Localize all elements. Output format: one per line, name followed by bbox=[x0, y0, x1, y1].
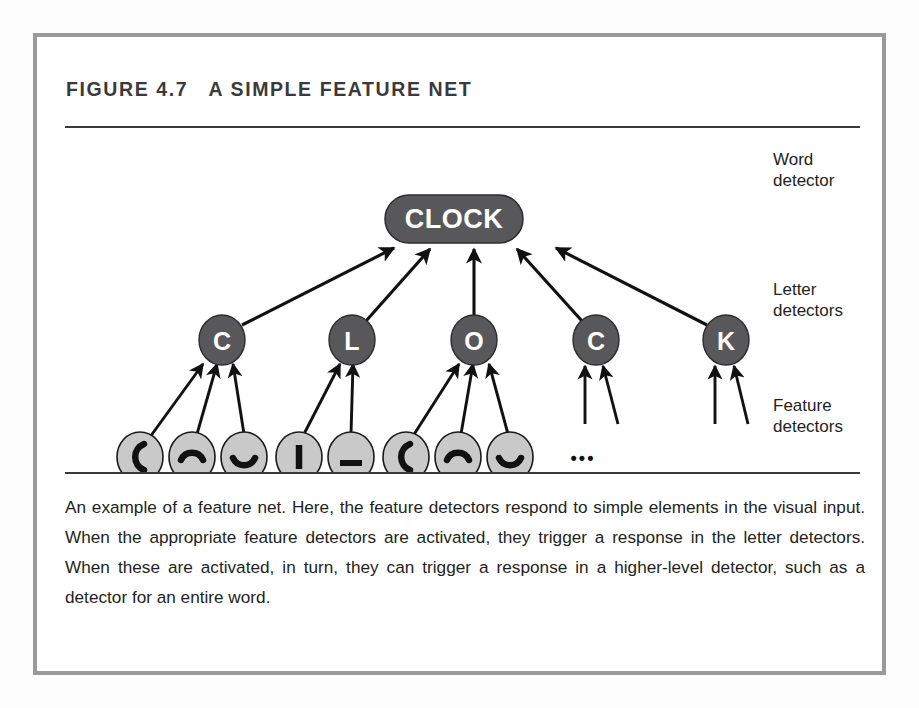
feature-node-6[interactable] bbox=[383, 432, 429, 472]
figure-page: FIGURE 4.7 A SIMPLE FEATURE NET bbox=[0, 0, 919, 708]
feature-node-7[interactable] bbox=[435, 432, 481, 472]
feature-node-8[interactable] bbox=[487, 432, 533, 472]
page-title: FIGURE 4.7 A SIMPLE FEATURE NET bbox=[66, 78, 472, 101]
letter-node-k[interactable]: K bbox=[703, 315, 749, 365]
edge-feature-2-to-letter-c1 bbox=[197, 364, 217, 434]
feature-ellipsis: ••• bbox=[571, 448, 596, 468]
divider-top bbox=[65, 126, 860, 128]
caption-text: An example of a feature net. Here, the f… bbox=[65, 492, 865, 612]
edge-feature-3-to-letter-c1 bbox=[233, 364, 244, 434]
edge-feature-5-to-letter-l bbox=[351, 364, 353, 434]
figure-caption: An example of a feature net. Here, the f… bbox=[65, 492, 865, 612]
letter-node-l[interactable]: L bbox=[329, 315, 375, 365]
letter-node-label: L bbox=[344, 327, 359, 355]
letter-node-label: O bbox=[464, 327, 483, 355]
letter-node-label: C bbox=[587, 327, 605, 355]
edge-feature-4-to-letter-l bbox=[304, 364, 340, 434]
edge-feature-1-to-letter-c1 bbox=[150, 364, 203, 437]
edges-stub bbox=[585, 366, 748, 424]
letter-node-label: K bbox=[717, 327, 735, 355]
feature-node-5[interactable] bbox=[328, 432, 374, 472]
figure-title-text: A SIMPLE FEATURE NET bbox=[209, 78, 473, 100]
edge-letter-l-to-word bbox=[366, 249, 430, 321]
level-label-letter: Letter detectors bbox=[773, 279, 843, 321]
edge-feature-8-to-letter-o bbox=[489, 364, 508, 434]
letter-node-c2[interactable]: C bbox=[573, 315, 619, 365]
edge-stub-letter-c2-b bbox=[603, 366, 618, 424]
feature-node-3[interactable] bbox=[221, 432, 267, 472]
feature-detector-nodes: ••• bbox=[117, 432, 595, 472]
feature-node-2[interactable] bbox=[169, 432, 215, 472]
word-detector-node[interactable]: CLOCK bbox=[385, 195, 523, 243]
edge-letter-k-to-word bbox=[556, 248, 707, 325]
figure-number: FIGURE 4.7 bbox=[66, 78, 188, 100]
level-label-word: Word detector bbox=[773, 149, 834, 191]
level-label-feature: Feature detectors bbox=[773, 395, 843, 437]
edges-feature-to-letter bbox=[150, 364, 508, 437]
feature-node-1[interactable] bbox=[117, 432, 163, 472]
edge-letter-c2-to-word bbox=[517, 249, 582, 321]
word-node-label: CLOCK bbox=[405, 204, 504, 234]
letter-detector-nodes: C L O C bbox=[199, 315, 749, 365]
letter-node-o[interactable]: O bbox=[451, 315, 497, 365]
edges-letter-to-word bbox=[242, 248, 707, 325]
edge-feature-7-to-letter-o bbox=[461, 364, 473, 434]
letter-node-c1[interactable]: C bbox=[199, 315, 245, 365]
edge-feature-6-to-letter-o bbox=[413, 364, 459, 436]
edge-stub-letter-k-b bbox=[734, 366, 748, 424]
feature-net-diagram: CLOCK C L O bbox=[37, 132, 890, 472]
feature-node-4[interactable] bbox=[276, 432, 322, 472]
figure-frame: FIGURE 4.7 A SIMPLE FEATURE NET bbox=[33, 33, 886, 675]
letter-node-label: C bbox=[213, 327, 231, 355]
figure-inner: FIGURE 4.7 A SIMPLE FEATURE NET bbox=[37, 37, 882, 671]
divider-bottom bbox=[65, 472, 860, 474]
